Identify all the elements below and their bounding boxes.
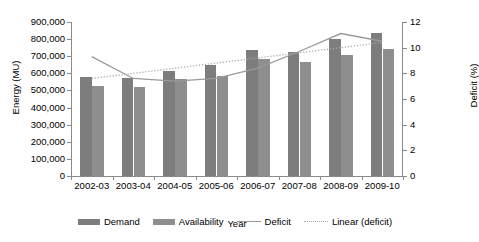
legend-label: Demand	[104, 216, 140, 227]
legend-item[interactable]: Availability	[153, 216, 224, 227]
legend-swatch-bar-swatch-demand	[78, 219, 100, 225]
legend-swatch-line-swatch-dotted	[304, 221, 328, 222]
legend-label: Deficit	[265, 216, 291, 227]
plot-area: 0100,000200,000300,000400,000500,000600,…	[71, 22, 403, 176]
x-axis-tick-label: 2005-06	[196, 180, 238, 191]
legend-swatch-line-swatch-solid	[237, 221, 261, 222]
x-axis-tick-label: 2006-07	[237, 180, 279, 191]
legend-item[interactable]: Linear (deficit)	[304, 216, 392, 227]
x-axis-tick-label: 2008-09	[320, 180, 362, 191]
x-axis-tick-label: 2002-03	[71, 180, 113, 191]
legend-swatch-bar-swatch-availability	[153, 219, 175, 225]
left-axis-tick-label: 0	[3, 171, 65, 181]
line-deficit	[92, 34, 383, 81]
right-axis-tick-label: 8	[410, 68, 440, 78]
x-axis-tick	[403, 176, 404, 180]
right-axis-tick-label: 4	[410, 120, 440, 130]
y-axis-title-left: Energy (MU)	[10, 43, 21, 133]
right-axis-tick-label: 2	[410, 145, 440, 155]
x-axis-tick-label: 2007-08	[279, 180, 321, 191]
legend-item[interactable]: Deficit	[237, 216, 291, 227]
x-axis-tick-label: 2003-04	[113, 180, 155, 191]
left-axis-tick-label: 100,000	[3, 154, 65, 164]
right-axis-tick-label: 6	[410, 94, 440, 104]
y-axis-title-right: Deficit (%)	[468, 41, 479, 131]
left-axis-tick-label: 200,000	[3, 137, 65, 147]
right-axis-tick-label: 10	[410, 43, 440, 53]
right-axis-tick-label: 0	[410, 171, 440, 181]
chart-legend: DemandAvailabilityDeficitLinear (deficit…	[0, 216, 470, 227]
legend-label: Linear (deficit)	[332, 216, 392, 227]
lines-layer	[71, 22, 403, 176]
legend-item[interactable]: Demand	[78, 216, 140, 227]
legend-label: Availability	[179, 216, 224, 227]
x-axis-tick-label: 2009-10	[362, 180, 404, 191]
right-axis-tick-label: 12	[410, 17, 440, 27]
x-axis-tick-label: 2004-05	[154, 180, 196, 191]
left-axis-tick-label: 900,000	[3, 17, 65, 27]
